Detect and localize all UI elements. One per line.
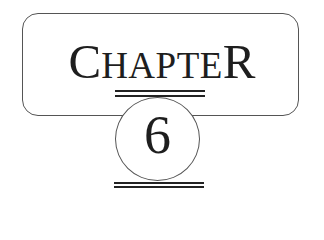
heading-last-letter: R	[223, 34, 256, 89]
heading-first-letter: C	[68, 34, 101, 89]
chapter-heading: CHAPTER	[0, 37, 324, 86]
bottom-rule-upper	[114, 182, 204, 184]
heading-middle-letters: HAPTE	[101, 45, 223, 86]
chapter-number: 6	[115, 108, 200, 162]
top-rule-upper	[115, 90, 205, 92]
bottom-rule-lower	[114, 186, 204, 188]
